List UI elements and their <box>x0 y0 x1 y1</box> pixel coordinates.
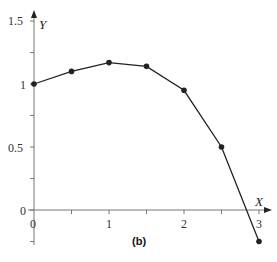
plot-area <box>31 60 262 245</box>
data-point <box>181 88 187 94</box>
y-axis-label: Y <box>39 17 48 32</box>
x-tick-label-3: 3 <box>256 217 262 231</box>
chart: 1.5 1 0.5 0 0 1 2 3 Y X (b) <box>0 0 277 262</box>
x-axis-arrow-icon <box>264 207 272 213</box>
y-axis-arrow-icon <box>31 10 37 18</box>
data-point <box>31 81 37 87</box>
x-tick-label-0: 0 <box>30 217 36 231</box>
data-point <box>69 69 75 75</box>
x-tick-label-2: 2 <box>181 217 187 231</box>
axes <box>28 10 272 245</box>
y-tick-label-1: 1 <box>20 78 26 92</box>
data-point <box>256 239 262 245</box>
x-axis-label: X <box>254 194 264 209</box>
figure-caption: (b) <box>132 235 146 247</box>
y-tick-label-0.5: 0.5 <box>8 141 23 155</box>
x-tick-label-1: 1 <box>106 217 112 231</box>
data-point <box>106 60 112 66</box>
y-tick-label-1.5: 1.5 <box>8 14 23 28</box>
data-point <box>219 144 225 150</box>
series-line <box>34 63 259 242</box>
y-tick-label-0: 0 <box>20 204 26 218</box>
data-point <box>144 64 150 70</box>
